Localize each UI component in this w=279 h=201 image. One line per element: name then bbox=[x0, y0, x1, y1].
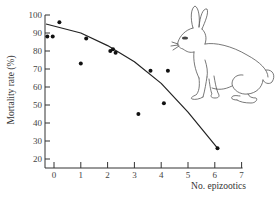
data-point bbox=[111, 47, 115, 51]
y-tick-label: 60 bbox=[33, 82, 43, 92]
data-point bbox=[51, 35, 55, 39]
data-point bbox=[149, 69, 153, 73]
data-point bbox=[57, 20, 61, 24]
x-tick-label: 7 bbox=[239, 170, 244, 180]
x-tick-label: 6 bbox=[213, 170, 218, 180]
fitted-curve-line bbox=[46, 24, 218, 148]
x-axis-title: No. epizootics bbox=[191, 181, 246, 191]
y-tick-label: 100 bbox=[29, 10, 43, 20]
y-axis-ticks: 2030405060708090100 bbox=[29, 10, 51, 164]
x-tick-label: 2 bbox=[105, 170, 110, 180]
y-tick-label: 80 bbox=[33, 46, 43, 56]
fitted-curve bbox=[46, 24, 218, 148]
rabbit-illustration bbox=[171, 6, 274, 103]
data-point bbox=[136, 112, 140, 116]
y-tick-label: 90 bbox=[33, 28, 43, 38]
x-tick-label: 5 bbox=[186, 170, 191, 180]
data-point bbox=[166, 69, 170, 73]
data-point bbox=[162, 101, 166, 105]
y-axis-title: Mortality rate (%) bbox=[6, 55, 17, 124]
y-tick-label: 70 bbox=[33, 64, 43, 74]
data-point bbox=[84, 36, 88, 40]
y-tick-label: 40 bbox=[33, 118, 43, 128]
data-point bbox=[79, 62, 83, 66]
data-points bbox=[45, 20, 219, 150]
x-tick-label: 4 bbox=[159, 170, 164, 180]
data-point bbox=[45, 35, 49, 39]
axes bbox=[45, 15, 243, 168]
x-tick-label: 1 bbox=[79, 170, 84, 180]
data-point bbox=[216, 146, 220, 150]
y-tick-label: 30 bbox=[33, 136, 43, 146]
x-tick-label: 0 bbox=[52, 170, 57, 180]
scatter-chart: 2030405060708090100 01234567 Mortality r… bbox=[0, 0, 279, 201]
data-point bbox=[114, 51, 118, 55]
x-tick-label: 3 bbox=[132, 170, 137, 180]
x-axis-ticks: 01234567 bbox=[52, 162, 245, 180]
y-tick-label: 50 bbox=[33, 100, 43, 110]
y-tick-label: 20 bbox=[33, 154, 43, 164]
